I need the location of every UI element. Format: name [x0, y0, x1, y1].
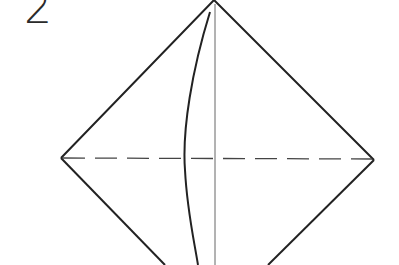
horizontal-fold-line [63, 158, 372, 159]
diamond-outline [61, 0, 374, 265]
diagram-figure [0, 0, 399, 265]
origami-diagram: 2 [0, 0, 399, 265]
curved-fold-line [184, 12, 210, 265]
